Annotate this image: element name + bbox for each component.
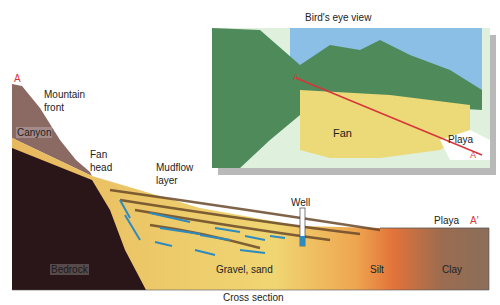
section-title: Cross section [223, 292, 284, 303]
inset-label-a: A [293, 72, 299, 83]
label-mountain-front-2: front [44, 102, 64, 113]
label-fan-head-2: head [90, 162, 112, 173]
label-fan-head-1: Fan [90, 149, 107, 160]
label-silt: Silt [370, 264, 384, 275]
label-canyon: Canyon [16, 127, 52, 138]
label-mountain-front-1: Mountain [44, 89, 85, 100]
label-playa: Playa [434, 215, 459, 226]
inset-label-a-prime: A' [470, 150, 478, 161]
label-mudflow-1: Mudflow [156, 162, 193, 173]
cross-section-diagram [0, 0, 500, 305]
label-a-prime: A' [470, 215, 479, 226]
label-a: A [14, 73, 21, 84]
label-mudflow-2: layer [156, 175, 178, 186]
birds-eye-inset [212, 28, 496, 175]
inset-label-playa: Playa [448, 134, 473, 145]
label-clay: Clay [442, 264, 462, 275]
label-gravel-sand: Gravel, sand [216, 264, 273, 275]
inset-label-fan: Fan [333, 128, 352, 139]
label-well: Well [291, 197, 310, 208]
inset-title: Bird's eye view [305, 12, 371, 23]
label-bedrock: Bedrock [50, 264, 89, 275]
